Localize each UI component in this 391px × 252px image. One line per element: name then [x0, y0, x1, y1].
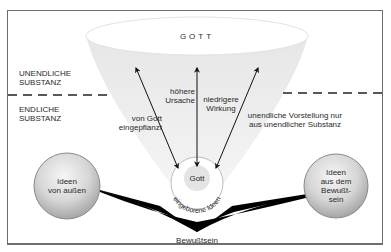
right-circle-line3: Bewußt- [306, 186, 366, 195]
label-niedrigere-wirkung: niedrigere Wirkung [199, 95, 243, 113]
left-circle-line1: Ideen [37, 177, 97, 186]
gott-title: GOTT [177, 32, 217, 41]
zone-upper-line2: SUBSTANZ [19, 78, 71, 87]
gott-inner-label: Gott [183, 174, 211, 183]
ideen-von-aussen-label: Ideen von außen [37, 177, 97, 195]
hoehere-line1: höhere [160, 87, 195, 96]
right-circle-line4: sein [306, 195, 366, 204]
bewusstsein-label: Bewußtsein [167, 236, 227, 245]
right-circle-line1: Ideen [306, 168, 366, 177]
zone-endliche-substanz: ENDLICHE SUBSTANZ [19, 105, 61, 123]
arrow-left-label-line2: eingepflanzt [108, 123, 162, 132]
label-von-gott-eingepflanzt: von Gott eingepflanzt [108, 114, 162, 132]
ideen-aus-dem-bewusstsein-label: Ideen aus dem Bewußt- sein [306, 168, 366, 204]
zone-unendliche-substanz: UNENDLICHE SUBSTANZ [19, 69, 71, 87]
unendliche-line1: unendliche Vorstellung nur [240, 111, 350, 120]
left-circle-line2: von außen [37, 186, 97, 195]
zone-lower-line2: SUBSTANZ [19, 114, 61, 123]
niedrigere-line2: Wirkung [199, 104, 243, 113]
label-unendliche-vorstellung: unendliche Vorstellung nur aus unendlich… [240, 111, 350, 129]
unendliche-line2: aus unendlicher Substanz [240, 120, 350, 129]
niedrigere-line1: niedrigere [199, 95, 243, 104]
zone-upper-line1: UNENDLICHE [19, 69, 71, 78]
hoehere-line2: Ursache [160, 96, 195, 105]
zone-lower-line1: ENDLICHE [19, 105, 61, 114]
arrow-left-label-line1: von Gott [108, 114, 162, 123]
right-circle-line2: aus dem [306, 177, 366, 186]
label-hoehere-ursache: höhere Ursache [160, 87, 195, 105]
